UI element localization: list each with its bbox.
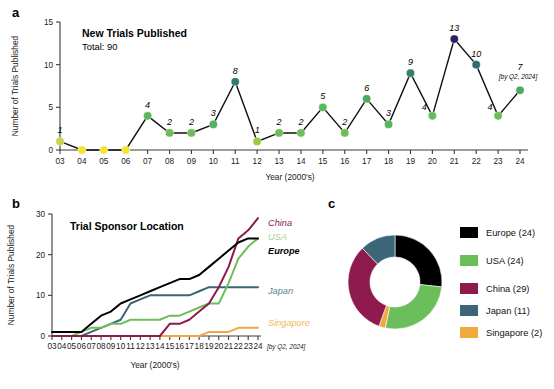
panel-b-xtick: 13 <box>146 342 156 351</box>
panel-a-xtick: 08 <box>165 157 175 166</box>
panel-a-data-point <box>428 112 436 120</box>
panel-a-point-label: 10 <box>471 49 481 59</box>
panel-b-series-label-china: China <box>268 218 292 228</box>
panel-a-title: New Trials Published <box>82 27 187 39</box>
panel-c-legend-label-china: China (29) <box>486 284 529 294</box>
panel-a-point-label: 4 <box>145 100 150 110</box>
panel-a-note: [by Q2, 2024] <box>498 73 538 81</box>
panel-b-xtick: 04 <box>57 342 67 351</box>
panel-b-xtick: 18 <box>195 342 205 351</box>
panel-b-xtick: 08 <box>96 342 106 351</box>
panel-a-point-label: 2 <box>188 117 194 127</box>
panel-a-xtick: 07 <box>143 157 153 166</box>
panel-a-data-point <box>231 78 239 86</box>
panel-a-data-point <box>363 95 371 103</box>
panel-a-point-label: 7 <box>517 62 523 72</box>
panel-a-xtick: 13 <box>274 157 284 166</box>
panel-a-point-label: 2 <box>297 117 303 127</box>
panel-a-point-label: 5 <box>320 91 326 101</box>
panel-a-point-label: 1 <box>57 125 62 135</box>
panel-a-xtick: 09 <box>187 157 197 166</box>
panel-a-ytick: 0 <box>48 146 53 155</box>
panel-b-ytick: 20 <box>36 251 46 260</box>
panel-c-chart: Europe (24)USA (24)China (29)Japan (11)S… <box>330 190 554 389</box>
panel-c-legend-swatch-europe <box>460 227 478 238</box>
panel-a-xtick: 10 <box>209 157 219 166</box>
panel-b-xtick: 05 <box>67 342 77 351</box>
panel-a-xtick: 19 <box>406 157 416 166</box>
panel-a-xtick: 18 <box>384 157 394 166</box>
panel-a-point-label: 1 <box>255 125 260 135</box>
panel-a-point-label: 2 <box>166 117 172 127</box>
panel-b-ytick: 10 <box>36 291 46 300</box>
panel-b-xtick: 11 <box>126 342 135 351</box>
panel-a-xtick: 04 <box>77 157 87 166</box>
panel-c-legend-swatch-usa <box>460 255 478 266</box>
panel-b-xtick: 07 <box>87 342 97 351</box>
panel-a-point-label: 4 <box>422 102 427 112</box>
panel-a-data-point <box>450 35 458 43</box>
panel-b-ytick: 0 <box>40 332 45 341</box>
panel-b-title: Trial Sponsor Location <box>70 220 184 232</box>
panel-c-legend-label-singapore: Singapore (2) <box>486 328 542 338</box>
panel-a-data-point <box>253 137 261 145</box>
panel-a-xtick: 11 <box>231 157 240 166</box>
panel-b-series-label-japan: Japan <box>267 286 293 296</box>
panel-c-legend-swatch-singapore <box>460 327 478 338</box>
panel-a-data-point <box>209 120 217 128</box>
panel-a-point-label: 9 <box>408 57 413 67</box>
panel-a-data-point <box>78 146 86 154</box>
panel-a-data-point <box>516 86 524 94</box>
panel-a-y-axis-title: Number of Trials Published <box>10 35 20 136</box>
panel-b-series-label-singapore: Singapore <box>268 318 310 328</box>
panel-a-xtick: 16 <box>340 157 350 166</box>
panel-a-data-point <box>165 129 173 137</box>
panel-a-ytick: 10 <box>44 61 54 70</box>
panel-b-series-label-europe: Europe <box>268 246 300 256</box>
panel-a-data-point <box>319 103 327 111</box>
panel-b-note: [by Q2, 2024] <box>266 343 306 351</box>
panel-a-data-point <box>384 120 392 128</box>
panel-a-xtick: 06 <box>121 157 131 166</box>
panel-a-xtick: 22 <box>472 157 482 166</box>
panel-c-legend-label-europe: Europe (24) <box>486 228 535 238</box>
panel-a-data-point <box>56 137 64 145</box>
panel-a-point-label: 2 <box>276 117 282 127</box>
panel-a-xtick: 15 <box>318 157 328 166</box>
panel-a-xtick: 23 <box>494 157 504 166</box>
panel-a-subtitle: Total: 90 <box>82 41 117 52</box>
panel-c-legend-label-usa: USA (24) <box>486 256 524 266</box>
panel-a-point-label: 8 <box>233 66 238 76</box>
panel-a-data-point <box>144 112 152 120</box>
panel-a-xtick: 12 <box>253 157 263 166</box>
panel-a-data-point <box>472 61 480 69</box>
panel-a-point-label: 4 <box>488 102 493 112</box>
panel-a-xtick: 05 <box>99 157 109 166</box>
panel-c-legend-label-japan: Japan (11) <box>486 306 530 316</box>
panel-a-series-line <box>60 39 520 150</box>
panel-a-data-point <box>122 146 130 154</box>
panel-a-x-axis-title: Year (2000's) <box>265 172 314 182</box>
panel-a-xtick: 21 <box>450 157 460 166</box>
panel-b-xtick: 06 <box>77 342 87 351</box>
panel-b-xtick: 22 <box>234 342 244 351</box>
panel-b-xtick: 09 <box>106 342 116 351</box>
panel-b-xtick: 16 <box>175 342 185 351</box>
panel-a-ytick: 15 <box>44 18 54 27</box>
panel-b-series-china <box>52 218 258 336</box>
panel-b-series-japan <box>52 287 258 336</box>
panel-a-data-point <box>341 129 349 137</box>
panel-b-xtick: 19 <box>204 342 214 351</box>
panel-b-y-axis-title: Number of Trials Published <box>6 224 16 325</box>
panel-b-xtick: 10 <box>116 342 126 351</box>
panel-b-xtick: 15 <box>165 342 175 351</box>
panel-b-ytick: 30 <box>36 210 46 219</box>
panel-a-point-label: 6 <box>364 83 369 93</box>
panel-a-data-point <box>100 146 108 154</box>
panel-b-chart: 0102030Number of Trials Published0304050… <box>0 190 330 389</box>
panel-b-xtick: 24 <box>253 342 263 351</box>
panel-a-ytick: 5 <box>48 103 53 112</box>
panel-b-x-axis-title: Year (2000's) <box>130 360 179 370</box>
panel-a-xtick: 03 <box>55 157 65 166</box>
panel-a-xtick: 20 <box>428 157 438 166</box>
